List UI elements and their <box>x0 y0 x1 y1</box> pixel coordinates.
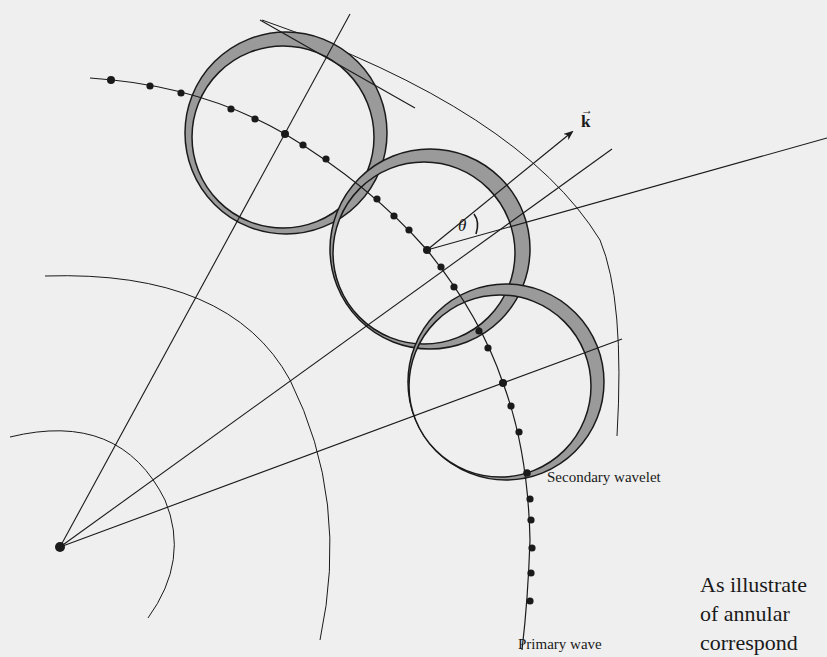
wave-vector-label: → k <box>581 112 590 132</box>
body-text-line: of annular <box>700 599 807 628</box>
body-text-line: As illustrate <box>700 570 807 599</box>
body-text-line: correspond <box>700 628 807 657</box>
source-point <box>55 542 65 552</box>
vector-arrow-glyph: → <box>581 103 593 118</box>
body-text-fragment: As illustrate of annular correspond <box>700 570 807 657</box>
primary-wave-label: Primary wave <box>518 636 602 653</box>
middle-arc <box>45 276 330 640</box>
angle-theta-label: θ <box>458 216 466 236</box>
secondary-wavelet-label: Secondary wavelet <box>547 469 661 486</box>
huygens-diagram <box>0 0 827 657</box>
